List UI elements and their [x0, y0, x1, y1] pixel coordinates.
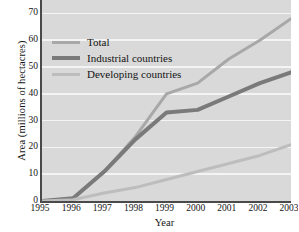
y-tick-label: 40 — [16, 89, 38, 99]
y-tick-label: 50 — [16, 62, 38, 72]
legend-label: Total — [87, 36, 109, 48]
y-tick-label: 30 — [16, 116, 38, 126]
x-axis-title: Year — [40, 217, 289, 228]
plot-area — [40, 0, 291, 203]
chart-legend: TotalIndustrial countriesDeveloping coun… — [52, 36, 181, 80]
legend-item: Total — [52, 36, 181, 48]
x-axis-tick-labels: 199519961997199819992000200120022003 — [40, 203, 289, 217]
x-tick-label: 2001 — [217, 203, 236, 213]
legend-label: Industrial countries — [87, 52, 172, 64]
y-tick-label: 10 — [16, 169, 38, 179]
y-axis-tick-labels: 010203040506070 — [14, 0, 38, 232]
y-tick-label: 20 — [16, 142, 38, 152]
x-tick-label: 1998 — [124, 203, 143, 213]
chart-figure: Area (millions of hectacres) 01020304050… — [0, 0, 298, 232]
x-tick-label: 1999 — [155, 203, 174, 213]
legend-swatch — [52, 41, 80, 44]
legend-label: Developing countries — [87, 68, 181, 80]
series-line — [42, 72, 291, 201]
x-tick-label: 2003 — [280, 203, 299, 213]
x-tick-label: 1996 — [62, 203, 81, 213]
y-tick-label: 60 — [16, 35, 38, 45]
x-tick-label: 2000 — [186, 203, 205, 213]
legend-swatch — [52, 73, 80, 76]
x-tick-label: 2002 — [248, 203, 267, 213]
legend-item: Industrial countries — [52, 52, 181, 64]
series-lines — [42, 0, 291, 201]
legend-swatch — [52, 56, 80, 60]
x-tick-label: 1995 — [31, 203, 50, 213]
legend-item: Developing countries — [52, 68, 181, 80]
y-tick-label: 70 — [16, 8, 38, 18]
x-tick-label: 1997 — [93, 203, 112, 213]
